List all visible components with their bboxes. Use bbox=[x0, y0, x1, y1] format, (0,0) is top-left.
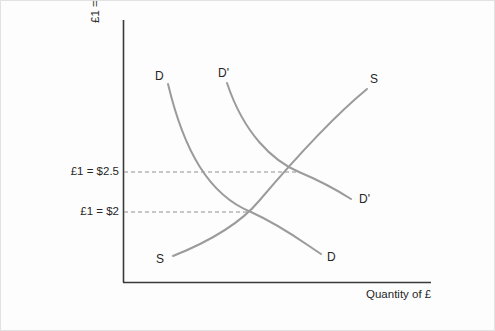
curve-label-demand-shift-top: D' bbox=[218, 67, 229, 79]
curve-label-demand-bottom: D bbox=[327, 251, 336, 263]
curve-label-supply-bottom: S bbox=[156, 253, 164, 265]
demand-curve-d bbox=[168, 84, 321, 254]
y-axis-title: £1 = $ bbox=[90, 0, 102, 23]
x-axis-title: Quantity of £ bbox=[366, 289, 431, 301]
curve-label-supply-top: S bbox=[370, 73, 378, 85]
chart-figure: £1 = $ Quantity of £ £1 = $2.5 £1 = $2 D… bbox=[0, 0, 495, 331]
curve-label-demand-shift-right: D' bbox=[359, 193, 370, 205]
demand-curve-d-prime bbox=[227, 83, 351, 199]
y-tick-label-2: £1 = $2 bbox=[64, 206, 119, 218]
curve-label-demand-top: D bbox=[155, 70, 164, 82]
y-tick-label-2-5: £1 = $2.5 bbox=[64, 166, 119, 178]
